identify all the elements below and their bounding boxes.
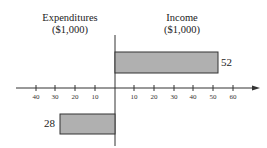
expenditures-value-label: 28 [44, 117, 55, 129]
income-title: Income [150, 12, 214, 24]
tick-label: 20 [151, 93, 158, 101]
tick-label: 40 [33, 93, 40, 101]
tick-label: 30 [171, 93, 178, 101]
expenditures-unit: ($1,000) [30, 24, 110, 36]
income-label: Income ($1,000) [150, 12, 214, 36]
expenditures-bar [60, 114, 115, 134]
tick-label: 60 [230, 93, 237, 101]
income-value-label: 52 [221, 56, 232, 68]
tick-label: 10 [92, 93, 99, 101]
x-axis-arrow-icon [252, 86, 260, 91]
tick-label: 10 [131, 93, 138, 101]
expenditures-title: Expenditures [30, 12, 110, 24]
income-unit: ($1,000) [150, 24, 214, 36]
tick-label: 40 [190, 93, 197, 101]
tick-label: 30 [52, 93, 59, 101]
expenditures-label: Expenditures ($1,000) [30, 12, 110, 36]
tick-label: 50 [210, 93, 217, 101]
tick-label: 20 [72, 93, 79, 101]
income-bar [115, 52, 218, 73]
